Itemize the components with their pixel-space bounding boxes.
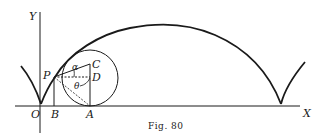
cycloid-right-branch <box>281 62 305 104</box>
label-angle-alpha: α <box>72 62 78 72</box>
label-point-d: D <box>91 71 101 84</box>
label-point-c: C <box>92 58 101 71</box>
cycloid-left-branch <box>21 66 41 104</box>
label-origin: O <box>31 108 40 121</box>
cycloid-figure: Y X O B A P C D α θ Fig. 80 <box>0 0 325 139</box>
angle-theta-arc <box>80 78 90 86</box>
label-angle-theta: θ <box>74 81 80 91</box>
figure-caption: Fig. 80 <box>148 121 184 131</box>
label-y-axis: Y <box>29 10 38 23</box>
label-point-a: A <box>85 108 94 121</box>
label-x-axis: X <box>302 107 312 120</box>
label-point-b: B <box>50 108 59 121</box>
label-point-p: P <box>42 69 51 82</box>
line-pa-dashed <box>54 77 90 106</box>
